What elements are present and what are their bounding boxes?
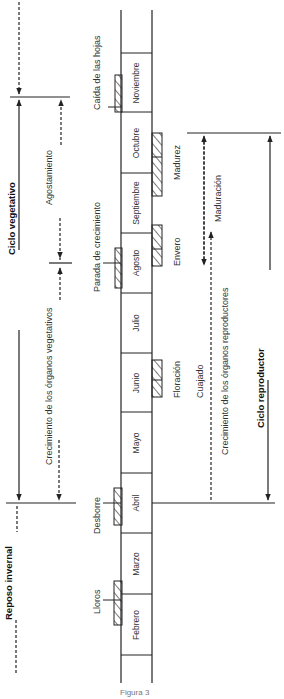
month-label-junio: Junio <box>131 372 141 392</box>
phase-agostamiento: Agostamiento <box>44 150 54 205</box>
figure-caption: Figura 3 <box>120 688 149 697</box>
event-label-rep-0: Madurez <box>172 145 182 180</box>
winter-rest-label: Reposo invernal <box>3 546 14 620</box>
event-label-veg-0: Caída de las hojas <box>92 35 102 110</box>
month-label-abril: Abril <box>131 494 141 511</box>
event-label-rep-3: Cuajado <box>195 364 205 398</box>
month-label-julio: Julio <box>131 314 141 331</box>
phase-maduracion: Maduración <box>213 175 223 222</box>
vegetative-cycle-lines <box>6 2 76 673</box>
phase-reproductive-growth: Crecimiento de los órganos reproductores <box>220 287 230 455</box>
month-label-noviembre: Noviembre <box>131 62 141 103</box>
event-label-veg-1: Parada de crecimiento <box>92 202 102 292</box>
event-label-veg-2: Desborre <box>92 497 102 534</box>
month-label-febrero: Febrero <box>131 610 141 640</box>
month-label-septiembre: Septiembre <box>131 181 141 224</box>
month-label-mayo: Mayo <box>131 432 141 453</box>
timeline-column <box>121 10 152 683</box>
month-label-agosto: Agosto <box>131 250 141 276</box>
month-label-marzo: Marzo <box>131 552 141 576</box>
vegetative-cycle-title: Ciclo vegetativo <box>6 182 17 255</box>
event-label-rep-1: Envero <box>172 237 182 266</box>
grapevine-cycle-diagram: NoviembreOctubreSeptiembreAgostoJulioJun… <box>0 0 284 699</box>
phase-vegetative-growth: Crecimiento de los órganos vegetativos <box>44 307 54 465</box>
vegetative-event-markers <box>103 75 122 625</box>
reproductive-event-markers <box>152 133 162 397</box>
reproductive-cycle-title: Ciclo reproductor <box>255 348 266 428</box>
event-label-rep-2: Floración <box>172 361 182 398</box>
month-label-octubre: Octubre <box>131 127 141 157</box>
event-label-veg-3: Lloros <box>92 589 102 614</box>
diagram-lines <box>0 0 284 699</box>
